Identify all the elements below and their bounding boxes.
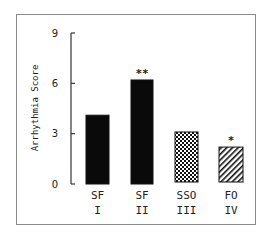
bar-1 — [86, 115, 109, 184]
y-axis: 0369 — [52, 28, 75, 190]
significance-marker: ** — [135, 67, 148, 80]
y-axis-label: Arrhythmia Score — [30, 65, 40, 152]
significance-marker: * — [228, 134, 235, 147]
y-tick-label: 9 — [52, 28, 58, 39]
category-label-top: SSO — [177, 189, 197, 202]
y-tick-label: 3 — [52, 128, 58, 139]
bar-4 — [219, 147, 243, 182]
x-axis-labels: SFISFIISSOIIIFOIV — [91, 189, 238, 217]
category-label-bottom: IV — [224, 204, 238, 217]
category-label-bottom: II — [135, 204, 148, 217]
bar-3 — [175, 132, 198, 182]
bars: *** — [86, 67, 243, 184]
category-label-top: SF — [135, 189, 148, 202]
y-tick-label: 0 — [52, 179, 58, 190]
category-label-bottom: III — [177, 204, 197, 217]
category-label-top: FO — [224, 189, 237, 202]
y-axis-title: Arrhythmia Score — [30, 65, 40, 152]
category-label-bottom: I — [94, 204, 101, 217]
bar-2 — [131, 80, 153, 184]
bar-chart: 0369 Arrhythmia Score *** SFISFIISSOIIIF… — [0, 0, 271, 237]
category-label-top: SF — [91, 189, 104, 202]
y-tick-label: 6 — [52, 78, 58, 89]
